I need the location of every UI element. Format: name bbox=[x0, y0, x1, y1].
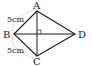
kite-diagram: A B C D 5cm 5cm bbox=[0, 0, 92, 66]
vertex-label-a: A bbox=[32, 0, 41, 11]
vertex-label-d: D bbox=[78, 29, 86, 40]
vertex-label-c: C bbox=[33, 56, 41, 66]
measurement-bc: 5cm bbox=[7, 46, 25, 55]
vertex-label-b: B bbox=[3, 29, 10, 40]
measurement-ab: 5cm bbox=[7, 15, 25, 24]
right-angle-mark bbox=[37, 30, 41, 34]
